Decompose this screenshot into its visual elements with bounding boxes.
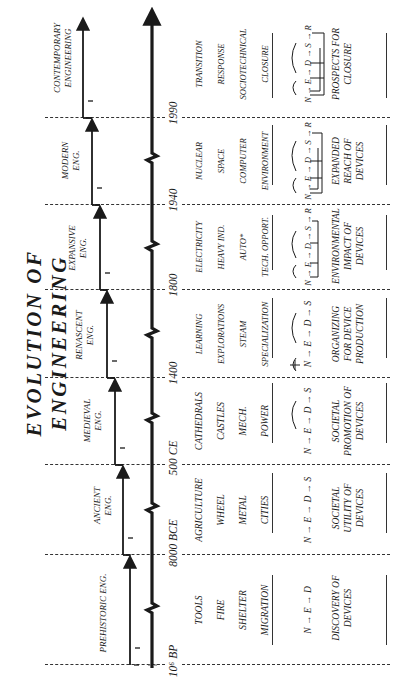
separator [386, 125, 387, 185]
separator [386, 298, 387, 358]
summary-contemporary: PROSPECTS FOR CLOSURE [330, 25, 354, 103]
summary-prehistoric: DISCOVERY OF DEVICES [330, 573, 354, 643]
summary-ancient: SOCIETAL UTILITY OF DEVICES [330, 473, 366, 543]
separator [386, 473, 387, 533]
separator [386, 383, 387, 443]
separator [386, 575, 387, 645]
summary-renascent: ORGANIZING FOR DEVICE PRODUCTION [330, 297, 366, 371]
summary-expansive: ENVIRONMENTAL IMPACT OF DEVICES [330, 207, 366, 285]
separator [386, 215, 387, 270]
separator [386, 33, 387, 98]
summary-medieval: SOCIETAL PROMOTION OF DEVICES [330, 385, 366, 457]
evolution-diagram: EVOLUTION OF ENGINEERING [0, 0, 407, 683]
summary-modern: EXPANDED REACH OF DEVICES [330, 124, 366, 198]
